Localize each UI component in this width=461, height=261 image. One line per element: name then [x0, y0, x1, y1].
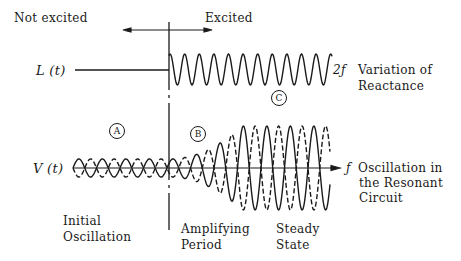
amplifying-period-line2: Period: [181, 238, 222, 253]
marker-B: B: [190, 126, 206, 142]
reactance-label-line1: Variation of: [358, 63, 432, 78]
oscillation-label-line1: Oscillation in: [358, 161, 443, 176]
V-signal-label: V (t): [33, 161, 63, 176]
initial-oscillation-line2: Oscillation: [63, 230, 131, 245]
not-excited-label: Not excited: [14, 11, 88, 26]
L-signal-label: L (t): [36, 63, 66, 78]
steady-state-line1: Steady: [276, 222, 320, 237]
voltage-axis: [73, 166, 340, 171]
oscillation-frequency-label: ƒ: [346, 161, 351, 176]
oscillation-label-line2: the Resonant: [359, 176, 443, 191]
excited-label: Excited: [205, 11, 253, 26]
excitation-arrow: [123, 28, 212, 32]
reactance-wave: [169, 54, 332, 85]
amplifying-period-line1: Amplifying: [181, 222, 250, 237]
oscillation-label-line3: Circuit: [359, 191, 403, 206]
reactance-frequency-label: 2ƒ: [333, 63, 346, 78]
steady-state-line2: State: [276, 238, 310, 253]
marker-A: A: [109, 123, 125, 139]
marker-C: C: [271, 90, 287, 106]
initial-oscillation-line1: Initial: [63, 214, 101, 229]
reactance-label-line2: Reactance: [358, 79, 424, 94]
